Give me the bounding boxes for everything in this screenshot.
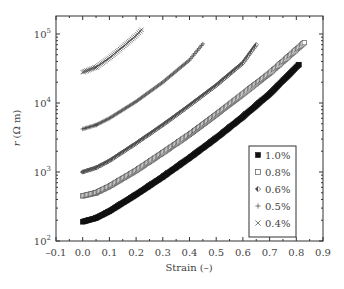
x-tick-label: –0.1 bbox=[46, 247, 67, 258]
series-0-4pct bbox=[81, 28, 144, 75]
y-axis-tick-labels: 102103104105 bbox=[34, 27, 52, 247]
x-tick-label: 0.6 bbox=[235, 247, 251, 258]
svg-text:r (Ω m): r (Ω m) bbox=[11, 110, 22, 147]
x-axis-label: Strain (–) bbox=[165, 262, 212, 273]
legend-marker-icon bbox=[255, 152, 260, 157]
x-tick-label: 0.0 bbox=[75, 247, 91, 258]
y-tick-label: 103 bbox=[34, 165, 51, 178]
x-tick-label: 0.3 bbox=[155, 247, 171, 258]
legend-label: 0.6% bbox=[265, 184, 290, 195]
legend-label: 0.5% bbox=[265, 201, 290, 212]
x-tick-label: 0.7 bbox=[262, 247, 278, 258]
legend-label: 1.0% bbox=[265, 150, 290, 161]
y-axis-label: r (Ω m) bbox=[11, 110, 22, 147]
x-tick-label: 0.9 bbox=[315, 247, 331, 258]
legend-label: 0.8% bbox=[265, 167, 290, 178]
x-tick-label: 0.4 bbox=[182, 247, 198, 258]
legend-marker-icon bbox=[255, 169, 260, 174]
x-tick-label: 0.1 bbox=[101, 247, 117, 258]
x-axis-tick-labels: –0.10.00.10.20.30.40.50.60.70.80.9 bbox=[46, 247, 331, 258]
x-tick-label: 0.5 bbox=[208, 247, 224, 258]
legend-label: 0.4% bbox=[265, 218, 290, 229]
y-tick-label: 102 bbox=[34, 234, 51, 247]
series-0-5pct bbox=[81, 42, 206, 132]
resistivity-strain-chart: –0.10.00.10.20.30.40.50.60.70.80.9 10210… bbox=[0, 0, 344, 289]
x-tick-label: 0.2 bbox=[128, 247, 144, 258]
y-tick-label: 104 bbox=[34, 96, 52, 109]
y-tick-label: 105 bbox=[34, 27, 51, 40]
x-tick-label: 0.8 bbox=[288, 247, 304, 258]
legend: 1.0%0.8%0.6%0.5%0.4% bbox=[249, 146, 296, 237]
